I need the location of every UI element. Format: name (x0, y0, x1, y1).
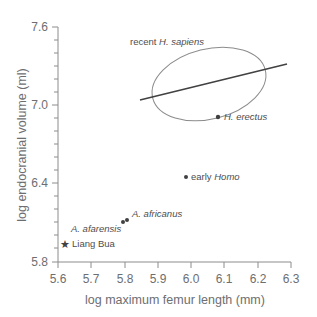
svg-text:6.2: 6.2 (250, 272, 267, 286)
svg-text:6.1: 6.1 (216, 272, 233, 286)
liang-bua-label: Liang Bua (72, 238, 116, 249)
x-axis-title: log maximum femur length (mm) (85, 293, 265, 307)
svg-text:6.4: 6.4 (31, 176, 48, 190)
a-africanus-point (125, 218, 129, 222)
svg-text:7.6: 7.6 (31, 20, 48, 34)
y-axis (52, 27, 58, 262)
h-erectus-label: H. erectus (224, 111, 268, 122)
svg-text:5.9: 5.9 (150, 272, 167, 286)
a-afarensis-point (121, 220, 125, 224)
early-homo-label: early Homo (191, 171, 240, 182)
svg-text:7.0: 7.0 (31, 98, 48, 112)
h-erectus-point (216, 115, 220, 119)
x-axis (58, 262, 291, 268)
a-afarensis-label: A. afarensis (70, 223, 121, 234)
svg-text:5.8: 5.8 (117, 272, 134, 286)
svg-text:6.0: 6.0 (183, 272, 200, 286)
svg-text:5.8: 5.8 (31, 255, 48, 269)
y-axis-title: log endocranial volume (ml) (15, 68, 29, 222)
svg-text:6.3: 6.3 (283, 272, 300, 286)
y-tick-labels: 7.6 7.0 6.4 5.8 (31, 20, 48, 269)
scatter-chart: 7.6 7.0 6.4 5.8 5.6 5.7 5.8 5.9 6.0 6.1 … (0, 0, 317, 317)
svg-text:5.7: 5.7 (83, 272, 100, 286)
star-icon: ★ (60, 238, 70, 251)
sapiens-label: recent H. sapiens (130, 36, 204, 47)
early-homo-point (184, 175, 188, 179)
x-tick-labels: 5.6 5.7 5.8 5.9 6.0 6.1 6.2 6.3 (50, 272, 300, 286)
svg-text:5.6: 5.6 (50, 272, 67, 286)
a-africanus-label: A. africanus (131, 208, 182, 219)
